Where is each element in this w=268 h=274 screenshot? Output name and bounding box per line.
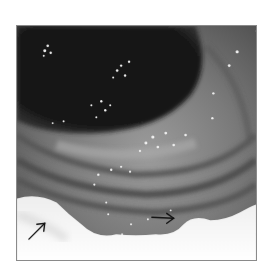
endoscopy-scene bbox=[17, 26, 256, 260]
endoscopy-image bbox=[16, 25, 257, 261]
